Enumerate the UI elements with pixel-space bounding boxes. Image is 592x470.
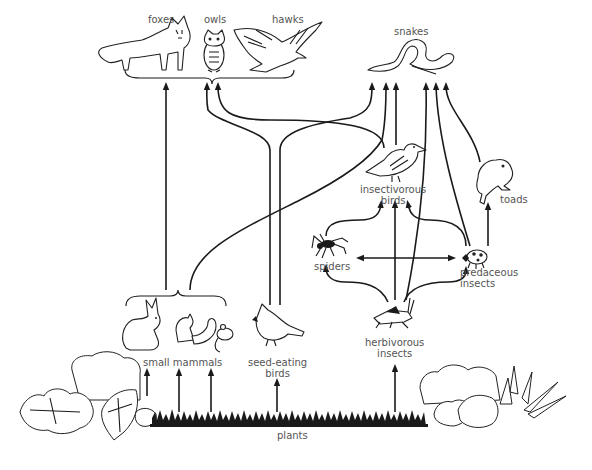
label-predaceous-insects: predaceous insects [460, 267, 518, 289]
grasshopper-icon [374, 298, 414, 328]
label-herbivorous-insects: herbivorous insects [365, 337, 424, 359]
label-small-mammals: small mammals [143, 357, 222, 368]
label-snakes: snakes [394, 26, 428, 37]
rabbit-icon [123, 298, 160, 350]
squirrel-icon [176, 314, 216, 344]
cardinal-icon [252, 304, 304, 346]
label-seed-eating-birds: seed-eating birds [248, 357, 307, 379]
label-insectivorous-birds: insectivorous birds [360, 184, 426, 206]
spider-icon [312, 234, 348, 258]
owl-icon [204, 30, 225, 72]
label-owls: owls [204, 14, 226, 25]
small-mammals-bracket [126, 290, 226, 306]
label-foxes: foxes [148, 14, 174, 25]
label-hawks: hawks [272, 14, 304, 25]
fox-icon [99, 16, 190, 70]
mouse-icon [215, 325, 233, 353]
label-spiders: spiders [314, 261, 350, 272]
predator-group-bracket [125, 70, 294, 84]
label-plants: plants [277, 430, 308, 441]
label-toads: toads [500, 194, 528, 205]
snake-icon [368, 40, 454, 74]
hawk-icon [234, 22, 322, 72]
food-web-diagram [0, 0, 592, 470]
